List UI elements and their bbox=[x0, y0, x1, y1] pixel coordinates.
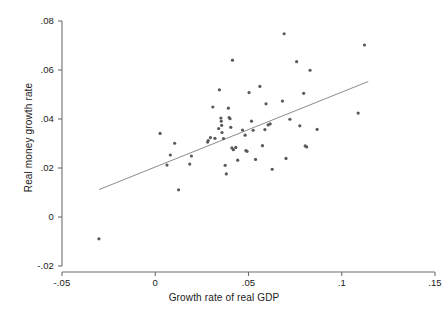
data-point bbox=[177, 188, 180, 191]
regression-line bbox=[99, 82, 368, 190]
data-point bbox=[305, 145, 308, 148]
data-point bbox=[283, 32, 286, 35]
data-point bbox=[188, 162, 191, 165]
data-point bbox=[207, 139, 210, 142]
data-point bbox=[229, 126, 232, 129]
data-point bbox=[220, 124, 223, 127]
y-axis-title: Real money growth rate bbox=[23, 48, 34, 228]
data-point bbox=[357, 112, 360, 115]
data-point bbox=[254, 158, 257, 161]
data-point bbox=[302, 92, 305, 95]
data-point bbox=[244, 134, 247, 137]
data-point bbox=[97, 237, 100, 240]
data-point bbox=[209, 136, 212, 139]
data-point bbox=[228, 117, 231, 120]
data-point bbox=[258, 85, 261, 88]
scatter-chart-figure: -.020.02.04.06.08 -.050.05.1.15 Growth r… bbox=[0, 0, 448, 316]
data-point bbox=[308, 69, 311, 72]
axis-ticks-group bbox=[58, 21, 435, 276]
axes-group bbox=[62, 21, 435, 272]
data-point bbox=[165, 163, 168, 166]
y-tick-label: -.02 bbox=[10, 260, 54, 271]
data-point bbox=[281, 100, 284, 103]
data-point bbox=[173, 142, 176, 145]
x-tick-label: 0 bbox=[130, 277, 180, 288]
data-point bbox=[169, 153, 172, 156]
regression-line-group bbox=[99, 82, 368, 190]
data-point bbox=[220, 131, 223, 134]
plot-canvas bbox=[0, 0, 448, 316]
data-point bbox=[269, 122, 272, 125]
data-point bbox=[217, 127, 220, 130]
data-point bbox=[227, 107, 230, 110]
data-point bbox=[236, 159, 239, 162]
data-point bbox=[247, 91, 250, 94]
x-tick-label: .1 bbox=[317, 277, 367, 288]
data-point bbox=[220, 120, 223, 123]
data-point bbox=[222, 137, 225, 140]
data-point bbox=[363, 43, 366, 46]
data-point bbox=[213, 137, 216, 140]
y-tick-label: .08 bbox=[10, 15, 54, 26]
x-tick-label: -.05 bbox=[37, 277, 87, 288]
data-point bbox=[190, 154, 193, 157]
data-point bbox=[264, 102, 267, 105]
data-point bbox=[271, 168, 274, 171]
x-axis-title: Growth rate of real GDP bbox=[0, 292, 448, 303]
data-point bbox=[263, 128, 266, 131]
data-point bbox=[316, 128, 319, 131]
data-point bbox=[211, 105, 214, 108]
data-point bbox=[298, 124, 301, 127]
data-point bbox=[158, 132, 161, 135]
x-tick-label: .15 bbox=[410, 277, 448, 288]
data-point bbox=[252, 129, 255, 132]
data-point bbox=[219, 116, 222, 119]
data-point bbox=[231, 59, 234, 62]
data-point bbox=[224, 164, 227, 167]
data-point bbox=[234, 146, 237, 149]
data-point bbox=[225, 172, 228, 175]
data-point bbox=[218, 88, 221, 91]
x-tick-label: .05 bbox=[224, 277, 274, 288]
data-point bbox=[261, 144, 264, 147]
data-point bbox=[241, 128, 244, 131]
data-point bbox=[284, 157, 287, 160]
data-point bbox=[245, 150, 248, 153]
data-point bbox=[232, 148, 235, 151]
data-point bbox=[288, 118, 291, 121]
data-point bbox=[250, 120, 253, 123]
data-point bbox=[295, 60, 298, 63]
